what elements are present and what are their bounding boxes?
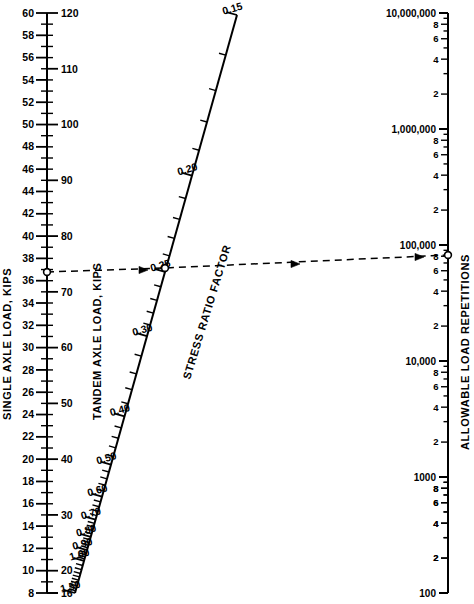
tandem-axle-load-axis-title: TANDEM AXLE LOAD, KIPS	[91, 263, 103, 420]
stress-ratio-tick-0.19	[192, 148, 199, 150]
repetitions-minor-label-400000: 4	[433, 170, 439, 181]
repetitions-minor-label-20000: 2	[433, 320, 438, 331]
stress-ratio-tick-1.15	[74, 572, 81, 574]
single-axle-tick-label-14: 14	[22, 520, 34, 532]
stress-ratio-tick-label-0.2: 0.20	[176, 160, 199, 177]
single-axle-load-axis-title: SINGLE AXLE LOAD, KIPS	[1, 268, 13, 420]
single-axle-tick-label-30: 30	[22, 341, 34, 353]
single-axle-tick-label-10: 10	[22, 564, 34, 576]
repetitions-decade-label-1000: 1000	[414, 472, 437, 483]
single-axle-tick-label-28: 28	[22, 364, 34, 376]
tandem-axle-tick-label-80: 80	[61, 230, 73, 242]
tandem-axle-tick-label-100: 100	[61, 118, 79, 130]
stress-ratio-tick-0.36	[125, 388, 132, 390]
single-axle-tick-label-40: 40	[22, 230, 34, 242]
single-axle-tick-label-26: 26	[22, 386, 34, 398]
isopleth-marker-right[interactable]	[445, 252, 452, 259]
single-axle-tick-label-20: 20	[22, 453, 34, 465]
stress-ratio-tick-label-0.5: 0.50	[95, 449, 118, 466]
repetitions-minor-label-200000: 2	[433, 204, 438, 215]
repetitions-minor-label-800: 8	[433, 483, 438, 494]
single-axle-tick-label-12: 12	[22, 542, 34, 554]
stress-ratio-tick-0.18	[200, 120, 207, 122]
stress-ratio-tick-label-0.4: 0.40	[108, 401, 131, 418]
stress-ratio-tick-0.44	[112, 436, 119, 438]
single-axle-tick-label-34: 34	[22, 297, 34, 309]
stress-ratio-tick-0.32	[135, 354, 142, 356]
isopleth-marker-left[interactable]	[44, 269, 51, 276]
single-axle-tick-label-18: 18	[22, 475, 34, 487]
repetitions-minor-label-8000000: 8	[433, 19, 438, 30]
stress-ratio-tick-label-1.5: 1.50	[59, 578, 82, 595]
stress-ratio-tick-1.2	[73, 575, 80, 577]
isopleth-dashed-line	[47, 255, 448, 272]
stress-ratio-tick-1.1	[75, 568, 82, 570]
isopleth-arrowhead-1	[139, 266, 148, 273]
repetitions-decade-label-1000000: 1,000,000	[392, 124, 437, 135]
single-axle-tick-label-24: 24	[22, 408, 34, 420]
fatigue-nomograph: 6058565452504846444240383634323028262422…	[0, 0, 474, 604]
tandem-axle-tick-label-50: 50	[61, 397, 73, 409]
stress-ratio-tick-label-0.25: 0.25	[149, 256, 172, 273]
repetitions-minor-label-2000000: 2	[433, 88, 438, 99]
repetitions-decade-label-100000: 100,000	[400, 240, 437, 251]
repetitions-minor-label-40000: 4	[433, 286, 439, 297]
repetitions-minor-label-8000: 8	[433, 367, 438, 378]
single-axle-tick-label-8: 8	[28, 587, 34, 599]
stress-ratio-tick-0.52	[102, 470, 109, 472]
allowable-load-repetitions-axis-title: ALLOWABLE LOAD REPETITIONS	[459, 254, 471, 450]
repetitions-decade-label-10000: 10,000	[405, 356, 436, 367]
isopleth-marker-middle[interactable]	[162, 265, 169, 272]
single-axle-tick-label-60: 60	[22, 7, 34, 19]
stress-ratio-tick-label-0.15: 0.15	[221, 0, 244, 17]
repetitions-decade-label-10000000: 10,000,000	[386, 8, 436, 19]
stress-ratio-tick-0.23	[168, 236, 175, 238]
tandem-axle-tick-label-120: 120	[61, 7, 79, 19]
isopleth-arrowhead-3	[415, 253, 424, 260]
isopleth-arrowhead-2	[291, 260, 300, 267]
tandem-axle-tick-label-20: 20	[61, 564, 73, 576]
stress-ratio-tick-label-0.3: 0.30	[131, 321, 154, 338]
stress-ratio-tick-0.26	[154, 285, 161, 287]
single-axle-tick-label-38: 38	[22, 252, 34, 264]
stress-ratio-tick-0.28	[147, 311, 154, 313]
stress-ratio-tick-0.21	[179, 197, 186, 199]
tandem-axle-tick-label-70: 70	[61, 286, 73, 298]
single-axle-tick-label-58: 58	[22, 29, 34, 41]
tandem-axle-tick-label-40: 40	[61, 453, 73, 465]
tandem-axle-tick-label-90: 90	[61, 174, 73, 186]
tandem-axle-tick-label-60: 60	[61, 341, 73, 353]
stress-ratio-tick-0.24	[163, 254, 170, 256]
stress-ratio-tick-0.42	[115, 426, 122, 428]
stress-ratio-tick-0.62	[94, 500, 101, 502]
repetitions-minor-label-6000: 6	[433, 381, 438, 392]
repetitions-minor-label-800000: 8	[433, 135, 438, 146]
tandem-axle-tick-label-110: 110	[61, 63, 78, 75]
repetitions-minor-label-400: 4	[433, 518, 439, 529]
generated-graphics: 6058565452504846444240383634323028262422…	[22, 0, 451, 599]
single-axle-tick-label-52: 52	[22, 96, 34, 108]
repetitions-minor-label-60000: 6	[433, 265, 438, 276]
single-axle-tick-label-48: 48	[22, 140, 34, 152]
repetitions-minor-label-2000: 2	[433, 436, 438, 447]
stress-ratio-tick-0.27	[150, 299, 157, 301]
repetitions-minor-label-600: 6	[433, 497, 438, 508]
single-axle-tick-label-50: 50	[22, 118, 34, 130]
stress-ratio-tick-label-0.7: 0.70	[79, 504, 102, 521]
repetitions-decade-label-100: 100	[419, 588, 436, 599]
stress-ratio-tick-1.05	[76, 564, 83, 566]
single-axle-tick-label-16: 16	[22, 497, 34, 509]
single-axle-tick-label-22: 22	[22, 430, 34, 442]
single-axle-tick-label-42: 42	[22, 207, 34, 219]
stress-ratio-tick-label-0.6: 0.60	[86, 481, 109, 498]
single-axle-tick-label-36: 36	[22, 274, 34, 286]
stress-ratio-factor-axis-title: STRESS RATIO FACTOR	[180, 243, 232, 380]
stress-ratio-tick-0.16	[219, 53, 226, 55]
single-axle-tick-label-44: 44	[22, 185, 34, 197]
single-axle-tick-label-46: 46	[22, 163, 34, 175]
repetitions-minor-label-4000: 4	[433, 402, 439, 413]
single-axle-tick-label-32: 32	[22, 319, 34, 331]
stress-ratio-tick-label-1: 1.00	[68, 545, 91, 562]
stress-ratio-tick-0.22	[173, 217, 180, 219]
stress-ratio-tick-0.46	[109, 446, 116, 448]
